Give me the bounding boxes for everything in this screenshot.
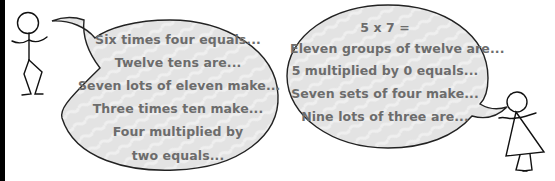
right-bubble-line-3: 5 multiplied by 0 equals... [290,62,480,80]
stick-figure-boy-icon [12,13,47,96]
left-bubble-line-4: Three times ten make... [78,100,278,118]
right-bubble-line-5: Nine lots of three are... [290,108,480,126]
right-bubble-line-2: Eleven groups of twelve are... [290,40,480,58]
left-bubble-line-1: Six times four equals... [78,31,278,49]
left-bubble-text: Six times four equals... Twelve tens are… [78,31,278,171]
left-bubble-line-2: Twelve tens are... [78,54,278,72]
right-bubble-text: 5 x 7 = Eleven groups of twelve are... 5… [290,19,480,139]
stick-figure-girl-icon [499,92,544,171]
right-bubble-line-4: Seven sets of four make... [290,85,480,103]
right-bubble-line-1: 5 x 7 = [290,19,480,37]
left-bubble-line-3: Seven lots of eleven make... [78,77,278,95]
left-bubble-line-5: Four multiplied by [78,123,278,141]
left-bubble-line-6: two equals... [78,147,278,165]
